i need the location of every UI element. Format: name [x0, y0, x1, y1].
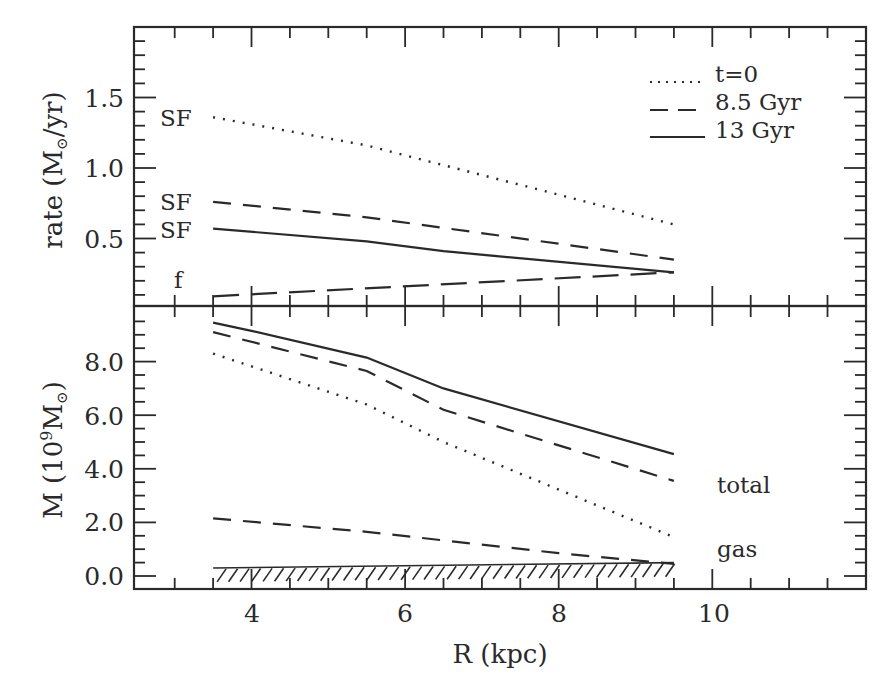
- hatch-stroke: [275, 568, 284, 581]
- xtick-4: 4: [244, 599, 260, 628]
- series-f: [213, 272, 674, 296]
- hatch-stroke: [424, 567, 433, 580]
- sun-symbol: ⊙: [53, 391, 71, 404]
- hatch-stroke: [585, 565, 594, 578]
- f-label: f: [174, 267, 184, 293]
- gas-label: gas: [717, 536, 757, 562]
- sf-label-13gyr: SF: [160, 217, 192, 243]
- bottom-ylabel-m: M: [38, 404, 68, 431]
- hatch-stroke: [367, 567, 376, 580]
- hatch-stroke: [332, 568, 341, 581]
- hatch-stroke: [643, 564, 652, 577]
- hatch-stroke: [390, 567, 399, 580]
- legend-label-8.5gyr: 8.5 Gyr: [715, 89, 801, 115]
- figure: 1.5 1.0 0.5 8.0 6.0 4.0 2.0 0.0 4 6 8 10…: [0, 0, 896, 682]
- x-axis-title: R (kpc): [452, 639, 547, 669]
- hatch-stroke: [240, 569, 249, 582]
- hatch-stroke: [574, 565, 583, 578]
- hatch-stroke: [344, 567, 353, 580]
- hatch-stroke: [298, 568, 307, 581]
- top-ylabel-head: rate (M: [38, 150, 68, 249]
- hatch-stroke: [355, 567, 364, 580]
- series-annotations: SF SF SF f total gas: [160, 105, 770, 562]
- bottom-ytick-2.0: 2.0: [84, 508, 124, 537]
- hatch-stroke: [493, 566, 502, 579]
- hatch-stroke: [562, 565, 571, 578]
- hatch-stroke: [516, 565, 525, 578]
- bottom-ytick-6.0: 6.0: [84, 402, 124, 431]
- hatch-stroke: [263, 568, 272, 581]
- tick-labels: 1.5 1.0 0.5 8.0 6.0 4.0 2.0 0.0 4 6 8 10: [84, 84, 730, 628]
- series-total-13-gyr: [213, 323, 674, 454]
- bottom-ylabel-head: M (10: [38, 441, 68, 519]
- svg-text:rate (M⊙/yr): rate (M⊙/yr): [38, 91, 71, 248]
- hatch-stroke: [217, 569, 226, 582]
- xtick-10: 10: [698, 599, 730, 628]
- hatch-stroke: [459, 566, 468, 579]
- xtick-6: 6: [397, 599, 413, 628]
- legend-label-13gyr: 13 Gyr: [715, 117, 794, 143]
- hatch-stroke: [654, 564, 663, 577]
- top-y-axis-title: rate (M⊙/yr): [38, 91, 71, 248]
- hatch-stroke: [482, 566, 491, 579]
- hatch-stroke: [666, 564, 675, 577]
- hatch-stroke: [470, 566, 479, 579]
- hatch-stroke: [597, 564, 606, 577]
- bottom-ylabel-tail: ): [38, 381, 68, 391]
- hatch-stroke: [436, 566, 445, 579]
- hatch-stroke: [309, 568, 318, 581]
- bottom-y-axis-title: M (109M⊙): [37, 381, 71, 519]
- series-gas-8-5-gyr: [213, 518, 674, 564]
- hatch-stroke: [505, 566, 514, 579]
- sf-label-8.5gyr: SF: [160, 189, 192, 215]
- legend-label-t0: t=0: [715, 61, 758, 87]
- hatch-stroke: [378, 567, 387, 580]
- hatch-stroke: [539, 565, 548, 578]
- exponent: 9: [37, 431, 56, 441]
- bottom-ytick-0.0: 0.0: [84, 562, 124, 591]
- series-total-t-0: [213, 354, 674, 537]
- bottom-ytick-8.0: 8.0: [84, 348, 124, 377]
- top-ytick-0.5: 0.5: [84, 225, 124, 254]
- legend: t=0 8.5 Gyr 13 Gyr: [650, 61, 801, 143]
- hatch-stroke: [631, 564, 640, 577]
- hatch-stroke: [413, 567, 422, 580]
- sun-symbol: ⊙: [53, 137, 71, 150]
- series-total-8-5-gyr: [213, 332, 674, 481]
- data-series: [213, 117, 674, 564]
- top-ytick-1.5: 1.5: [84, 84, 124, 113]
- hatch-stroke: [620, 564, 629, 577]
- total-label: total: [717, 472, 770, 498]
- svg-text:M (109M⊙): M (109M⊙): [37, 381, 71, 519]
- hatch-stroke: [528, 565, 537, 578]
- sf-label-t0: SF: [160, 105, 192, 131]
- hatch-stroke: [447, 566, 456, 579]
- top-ylabel-tail: /yr): [38, 91, 68, 137]
- hatch-stroke: [229, 569, 238, 582]
- bottom-ytick-4.0: 4.0: [84, 455, 124, 484]
- top-ytick-1.0: 1.0: [84, 154, 124, 183]
- xtick-8: 8: [551, 599, 567, 628]
- hatch-stroke: [252, 569, 261, 582]
- hatch-stroke: [608, 564, 617, 577]
